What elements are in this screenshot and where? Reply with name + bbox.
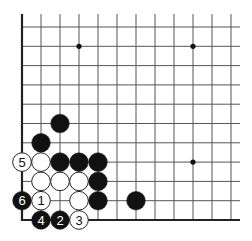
black-stone: 6 bbox=[13, 191, 32, 210]
black-stone-icon bbox=[32, 134, 51, 153]
white-stone-icon bbox=[32, 153, 51, 172]
white-stone-icon bbox=[70, 191, 89, 210]
move-number-label: 5 bbox=[18, 155, 25, 170]
white-stone-icon bbox=[32, 172, 51, 191]
star-point-icon bbox=[190, 44, 195, 49]
black-stone-icon bbox=[89, 172, 108, 191]
white-stone: 5 bbox=[13, 153, 32, 172]
black-stone bbox=[32, 134, 51, 153]
black-stone: 2 bbox=[51, 211, 70, 230]
move-number-label: 4 bbox=[37, 213, 44, 228]
black-stone-icon bbox=[51, 114, 70, 133]
move-number-label: 3 bbox=[75, 213, 82, 228]
white-stone-icon bbox=[70, 172, 89, 191]
black-stone: 4 bbox=[32, 211, 51, 230]
black-stone bbox=[89, 172, 108, 191]
white-stone: 1 bbox=[32, 191, 51, 210]
black-stone bbox=[70, 153, 89, 172]
black-stone-icon bbox=[89, 191, 108, 210]
white-stone bbox=[32, 172, 51, 191]
black-stone-icon bbox=[89, 153, 108, 172]
black-stone-icon bbox=[70, 153, 89, 172]
move-number-label: 6 bbox=[18, 193, 25, 208]
star-point-icon bbox=[190, 160, 195, 165]
white-stone bbox=[70, 191, 89, 210]
white-stone bbox=[70, 172, 89, 191]
black-stone bbox=[89, 153, 108, 172]
go-board: 561423 bbox=[0, 0, 252, 241]
move-number-label: 1 bbox=[37, 193, 44, 208]
black-stone bbox=[51, 153, 70, 172]
black-stone bbox=[127, 191, 146, 210]
white-stone: 3 bbox=[70, 211, 89, 230]
move-number-label: 2 bbox=[56, 213, 63, 228]
white-stone bbox=[51, 172, 70, 191]
black-stone bbox=[89, 191, 108, 210]
black-stone-icon bbox=[51, 153, 70, 172]
white-stone bbox=[32, 153, 51, 172]
white-stone-icon bbox=[51, 172, 70, 191]
black-stone bbox=[51, 114, 70, 133]
black-stone-icon bbox=[127, 191, 146, 210]
star-point-icon bbox=[76, 44, 81, 49]
